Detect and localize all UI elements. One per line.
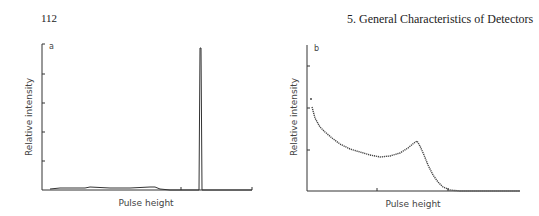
figure: a Pulse height Relative intensity b Puls… (0, 0, 539, 216)
series-b (312, 107, 520, 191)
x-axis-label-b: Pulse height (385, 199, 441, 209)
panel-label-b: b (314, 44, 319, 53)
y-axis-label-b: Relative intensity (289, 77, 299, 156)
chart-b: b Pulse height Relative intensity (289, 44, 520, 209)
panel-label-a: a (49, 42, 54, 51)
chart-a: a Pulse height Relative intensity (24, 42, 252, 208)
x-axis-label-a: Pulse height (118, 198, 174, 208)
series-a (50, 48, 252, 190)
y-axis-label-a: Relative intensity (24, 77, 34, 156)
